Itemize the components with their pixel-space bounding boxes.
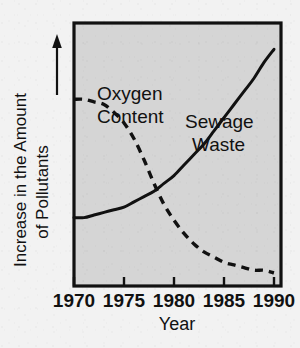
pollutants-line-chart: Oxygen Content Sewage Waste 197019751980… bbox=[0, 0, 300, 348]
x-axis-tick-label: 1985 bbox=[203, 290, 246, 311]
x-axis-tick-label: 1990 bbox=[253, 290, 295, 311]
x-axis-tick-label: 1980 bbox=[153, 290, 195, 311]
x-axis-tick-labels: 19701975198019851990 bbox=[53, 290, 295, 311]
x-axis-tick-label: 1975 bbox=[103, 290, 146, 311]
y-axis-title-line2: of Pollutants bbox=[33, 145, 52, 239]
chart-figure: Oxygen Content Sewage Waste 197019751980… bbox=[0, 0, 300, 348]
annotation-oxygen-content-line2: Content bbox=[97, 106, 164, 127]
x-axis-title: Year bbox=[159, 314, 195, 334]
annotation-sewage-waste-line2: Waste bbox=[192, 134, 245, 155]
y-axis-title-line1: Increase in the Amount bbox=[11, 93, 30, 267]
x-axis-tick-label: 1970 bbox=[53, 290, 95, 311]
plot-area-background bbox=[74, 23, 281, 286]
annotation-sewage-waste-line1: Sewage bbox=[185, 111, 254, 132]
annotation-oxygen-content-line1: Oxygen bbox=[97, 83, 162, 104]
